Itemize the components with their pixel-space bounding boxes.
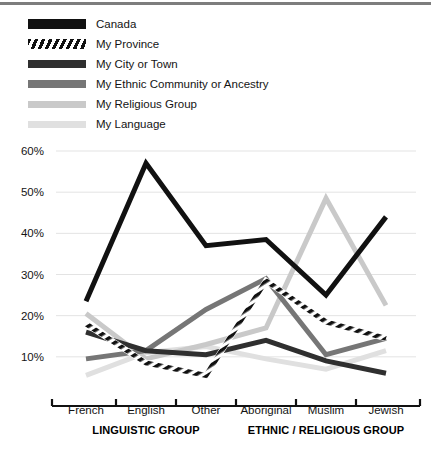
legend-item-label: Canada [96,18,136,31]
x-axis-tick-label: French [68,404,104,416]
x-axis-tick-label: English [127,404,165,416]
legend-item[interactable]: My Religious Group [28,94,358,114]
x-axis-tick-label: Jewish [368,404,403,416]
x-axis-tick-label: Muslim [308,404,344,416]
plot-area: 10%20%30%40%50%60% [0,140,431,410]
chart-legend: CanadaMy ProvinceMy City or TownMy Ethni… [28,14,358,134]
top-divider-rule [0,2,431,5]
line-chart-canvas [0,140,431,410]
x-axis-tick-label: Aboriginal [240,404,291,416]
legend-item-label: My Language [96,118,166,131]
legend-swatch-icon [28,80,86,88]
legend-item[interactable]: Canada [28,14,358,34]
legend-item[interactable]: My Ethnic Community or Ancestry [28,74,358,94]
x-axis-group-label: ETHNIC / RELIGIOUS GROUP [248,424,404,436]
chart-figure: CanadaMy ProvinceMy City or TownMy Ethni… [0,0,431,449]
x-axis-tick-label: Other [192,404,221,416]
legend-swatch-icon [28,101,86,108]
legend-item[interactable]: My City or Town [28,54,358,74]
legend-item-label: My Religious Group [96,98,197,111]
x-axis: FrenchEnglishOtherAboriginalMuslimJewish… [0,398,431,449]
legend-item[interactable]: My Language [28,114,358,134]
legend-swatch-icon [28,60,86,68]
legend-item-label: My Province [96,38,159,51]
x-axis-group-label: LINGUISTIC GROUP [92,424,199,436]
legend-swatch-icon [28,121,86,128]
series-line[interactable] [86,163,386,301]
legend-swatch-icon [28,39,86,49]
legend-item-label: My Ethnic Community or Ancestry [96,78,269,91]
legend-item-label: My City or Town [96,58,178,71]
legend-item[interactable]: My Province [28,34,358,54]
legend-swatch-icon [28,19,86,29]
